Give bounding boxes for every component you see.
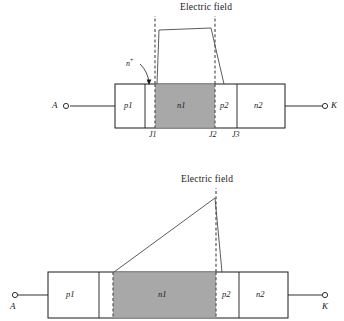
- junction-label-j3: J3: [232, 131, 240, 139]
- field-profile-trapezoid: [157, 28, 224, 84]
- anode-terminal-node: [12, 292, 17, 297]
- junction-label-j1: J1: [149, 131, 157, 139]
- layer-label-p1: p1: [124, 101, 133, 110]
- layer-label-n2: n2: [256, 290, 265, 299]
- nplus-pointer-arc: [140, 64, 149, 82]
- layer-label-p2: p2: [220, 101, 229, 110]
- top-panel-graphics: [0, 0, 344, 160]
- layer-label-n1: n1: [177, 101, 186, 110]
- bottom-panel-graphics: [0, 160, 344, 321]
- figure-container: Electric field n+ p1 n1 p2 n2 J1 J2 J3 A…: [0, 0, 344, 321]
- field-profile-triangle: [114, 198, 222, 272]
- cathode-terminal-node: [322, 103, 327, 108]
- panel-bottom: Electric field p1 n1 p2 n2 J1 J2 J3 A K: [0, 160, 344, 321]
- layer-label-p1: p1: [66, 290, 75, 299]
- layer-label-p2: p2: [222, 290, 231, 299]
- nplus-layer-label: n+: [126, 57, 133, 68]
- terminal-label-anode: A: [10, 302, 16, 311]
- layer-label-n2: n2: [254, 101, 263, 110]
- terminal-label-cathode: K: [331, 101, 337, 110]
- cathode-terminal-node: [322, 292, 327, 297]
- terminal-label-cathode: K: [322, 302, 328, 311]
- electric-field-title: Electric field: [181, 175, 233, 185]
- anode-terminal-node: [63, 103, 68, 108]
- junction-label-j2: J2: [209, 131, 217, 139]
- layer-label-n1: n1: [158, 290, 167, 299]
- panel-top: Electric field n+ p1 n1 p2 n2 J1 J2 J3 A…: [0, 0, 344, 160]
- terminal-label-anode: A: [52, 101, 58, 110]
- electric-field-title: Electric field: [180, 3, 232, 13]
